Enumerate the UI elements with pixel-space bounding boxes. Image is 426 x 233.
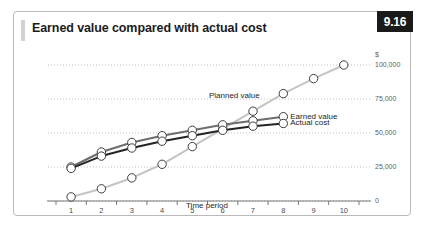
x-axis-tick-label: 10: [334, 206, 354, 215]
data-point-marker: [67, 193, 75, 201]
data-point-marker: [128, 174, 136, 182]
data-point-marker: [188, 132, 196, 140]
series-label-1: Planned value: [209, 91, 260, 100]
data-point-marker: [309, 74, 317, 82]
y-axis-tick-label: 75,000: [375, 95, 423, 102]
x-axis-title: Time period: [147, 201, 267, 210]
data-point-marker: [249, 107, 257, 115]
data-point-marker: [97, 185, 105, 193]
chart-plot-area: 025,00050,00075,000100,000$12345678910Ti…: [14, 12, 412, 217]
y-axis-tick-label: 25,000: [375, 163, 423, 170]
figure-panel: Earned value compared with actual cost 9…: [13, 11, 411, 216]
series-line-1: [71, 65, 344, 197]
y-axis-tick-label: 0: [375, 197, 423, 204]
line-chart-svg: [14, 12, 412, 217]
x-axis-tick-label: 9: [304, 206, 324, 215]
data-point-marker: [97, 152, 105, 160]
data-point-marker: [67, 164, 75, 172]
data-point-marker: [279, 89, 287, 97]
series-label-3: Actual cost: [290, 118, 329, 127]
y-axis-tick-label: 50,000: [375, 129, 423, 136]
data-point-marker: [340, 61, 348, 69]
data-point-marker: [279, 119, 287, 127]
data-point-marker: [158, 160, 166, 168]
data-point-marker: [158, 137, 166, 145]
data-point-marker: [188, 142, 196, 150]
x-axis-tick-label: 1: [61, 206, 81, 215]
x-axis-tick-label: 8: [273, 206, 293, 215]
y-axis-unit-label: $: [375, 51, 423, 58]
data-point-marker: [249, 122, 257, 130]
x-axis-tick-label: 2: [91, 206, 111, 215]
x-axis-tick-label: 3: [122, 206, 142, 215]
data-point-marker: [128, 144, 136, 152]
y-axis-tick-label: 100,000: [375, 61, 423, 68]
data-point-marker: [219, 126, 227, 134]
